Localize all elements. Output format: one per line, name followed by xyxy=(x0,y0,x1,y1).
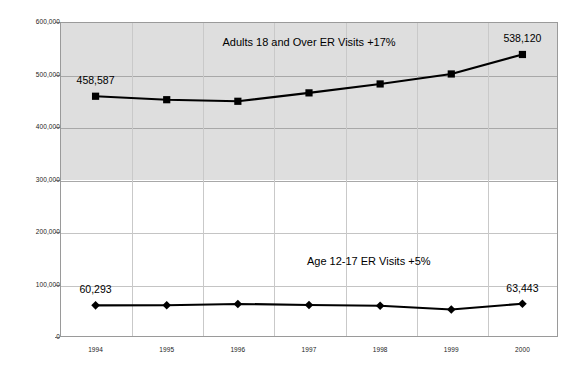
y-axis-tick-label: 600,000 xyxy=(8,18,60,26)
x-axis-tick-label: 2000 xyxy=(492,345,552,354)
y-axis-tick-mark xyxy=(55,337,60,338)
vertical-gridline xyxy=(203,23,204,336)
gridline xyxy=(61,181,557,182)
gridline xyxy=(61,233,557,234)
y-axis-tick-mark xyxy=(55,232,60,233)
y-axis-tick-label: 100,000 xyxy=(8,281,60,289)
gridline xyxy=(61,286,557,287)
y-axis-tick-label: 200,000 xyxy=(8,228,60,236)
vertical-gridline xyxy=(417,23,418,336)
x-axis-tick-label: 1998 xyxy=(350,345,410,354)
gridline xyxy=(61,76,557,77)
x-axis-tick-label: 1999 xyxy=(421,345,481,354)
data-point-label: 63,443 xyxy=(506,282,538,294)
x-axis-tick-label: 1996 xyxy=(208,345,268,354)
plot-area xyxy=(60,22,558,337)
y-axis-tick-label: 300,000 xyxy=(8,176,60,184)
gridline xyxy=(61,128,557,129)
data-point-label: 458,587 xyxy=(77,74,115,86)
y-axis-tick-mark xyxy=(55,180,60,181)
y-axis-tick-label: 0 xyxy=(8,333,60,341)
series-annotation-teens: Age 12-17 ER Visits +5% xyxy=(307,255,431,268)
y-axis-tick-mark xyxy=(55,22,60,23)
x-axis-tick-label: 1997 xyxy=(279,345,339,354)
y-axis-tick-mark xyxy=(55,285,60,286)
y-axis-tick-label: 500,000 xyxy=(8,71,60,79)
er-visits-line-chart: 0100,000200,000300,000400,000500,000600,… xyxy=(0,0,583,374)
series-annotation-adults: Adults 18 and Over ER Visits +17% xyxy=(222,36,395,49)
vertical-gridline xyxy=(274,23,275,336)
y-axis-tick-mark xyxy=(55,127,60,128)
y-axis-tick-mark xyxy=(55,75,60,76)
x-axis-tick-label: 1994 xyxy=(66,345,126,354)
y-axis: 0100,000200,000300,000400,000500,000600,… xyxy=(0,0,60,374)
vertical-gridline xyxy=(346,23,347,336)
data-point-label: 60,293 xyxy=(80,283,112,295)
vertical-gridline xyxy=(132,23,133,336)
y-axis-tick-label: 400,000 xyxy=(8,123,60,131)
x-axis-tick-label: 1995 xyxy=(137,345,197,354)
vertical-gridline xyxy=(488,23,489,336)
data-point-label: 538,120 xyxy=(503,32,541,44)
